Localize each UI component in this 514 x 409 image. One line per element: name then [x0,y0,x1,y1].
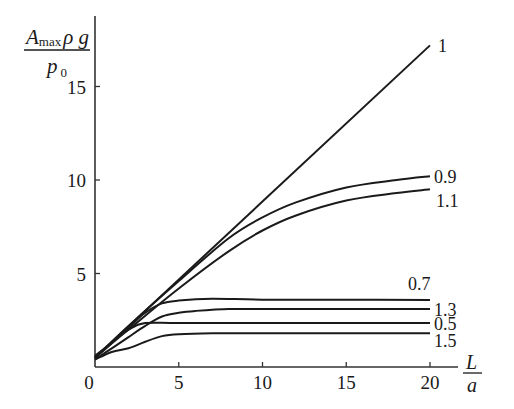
y-tick-label: 15 [67,77,86,98]
y-label-sub: max [39,34,62,49]
x-tick-label: 15 [337,372,356,393]
svg-text:p0: p0 [45,54,67,80]
curve-label: 1 [438,36,447,56]
y-tick-label: 10 [67,170,86,191]
x-tick-label: 5 [174,372,184,393]
curve-label: 0.7 [408,274,431,294]
curves [95,45,430,359]
x-axis-label: L a [463,351,482,396]
y-label-A: A [24,25,39,49]
x-tick-label: 10 [253,372,272,393]
x-tick-label: 20 [421,372,440,393]
curve-0-7 [95,299,430,358]
svg-text:Amaxρ g: Amaxρ g [24,25,89,49]
y-label-p: p [45,54,58,78]
curve-label: 1.1 [436,191,459,211]
curve-labels: 10.91.10.71.30.51.5 [408,36,459,351]
x-label-a: a [467,374,477,396]
y-tick-label: 5 [77,264,87,285]
curve-label: 1.5 [434,331,457,351]
curve-0-9 [95,176,430,357]
x-tick-label: 0 [84,372,94,393]
y-axis-label: Amaxρ g p0 [24,25,90,80]
chart: 0510152051015 10.91.10.71.30.51.5 Amaxρ … [0,0,514,409]
curve-1-5 [95,333,430,359]
y-label-rest: ρ g [62,25,89,49]
curve-label: 0.9 [434,167,457,187]
y-label-p-sub: 0 [61,65,68,80]
x-label-L: L [465,351,477,373]
curve-0-5 [95,323,430,356]
